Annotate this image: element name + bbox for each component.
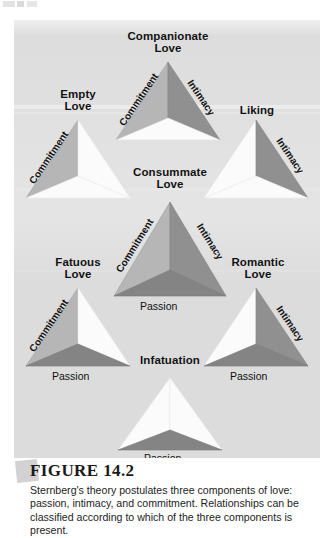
diagram-panel: Companionate Love Commitment Intimacy Em… [14,20,320,458]
triangle-title-empty: Empty Love [38,88,118,112]
triangle-title-consummate: Consummate Love [108,166,232,190]
figure-number: FIGURE 14.2 [30,461,135,481]
base-label-passion-fatuous: Passion [52,370,89,382]
figure-caption-text: Sternberg's theory postulates three comp… [30,484,318,538]
triangle-title-infatuation: Infatuation [118,354,222,366]
triangle-title-companionate: Companionate Love [106,30,230,54]
base-label-passion-consummate: Passion [140,300,177,312]
cropped-header-fragment [3,1,37,7]
triangle-title-romantic: Romantic Love [210,256,306,280]
triangle-title-liking: Liking [220,104,294,116]
triangle-infatuation[interactable] [118,378,222,450]
triangle-title-fatuous: Fatuous Love [34,256,122,280]
base-label-passion-romantic: Passion [230,370,267,382]
figure-caption-block: FIGURE 14.2 Sternberg's theory postulate… [14,458,320,524]
